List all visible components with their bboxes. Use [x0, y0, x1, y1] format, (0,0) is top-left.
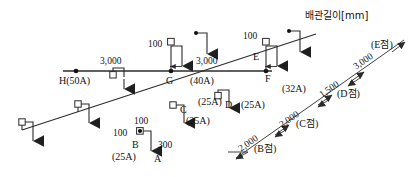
- branch-drop-upper-right: [287, 29, 300, 52]
- offset-100-b-left: 100: [113, 129, 127, 139]
- riser-dimension-300: 300: [158, 141, 172, 151]
- dimension-h-g: 3,000: [100, 57, 121, 67]
- piping-diagram-canvas: 배관길이[mm] 3,000 3,000 H(50A) G (40A) F (3…: [0, 0, 416, 177]
- diagonal-point-e: (E점): [371, 40, 393, 50]
- size-label-32a: (32A): [282, 84, 306, 94]
- node-label-e: E: [253, 52, 259, 62]
- diagonal-point-d: (D점): [337, 89, 360, 99]
- node-label-d: D: [225, 100, 232, 110]
- size-label-25a-b: (25A): [112, 152, 136, 162]
- diagonal-point-b: (B점): [254, 144, 276, 154]
- branch-drop-top-middle: [194, 31, 207, 54]
- horizontal-dimension-line: [63, 67, 277, 74]
- size-label-25a-c: (25A): [186, 116, 210, 126]
- offset-100-b-top: 100: [134, 117, 148, 127]
- branch-drop-1: [19, 119, 33, 141]
- node-label-a: A: [154, 154, 161, 164]
- diagonal-point-c: (C점): [296, 119, 318, 129]
- dimension-g-f: 3,000: [196, 57, 217, 67]
- offset-100-e: 100: [243, 32, 257, 42]
- node-label-g: G: [166, 76, 173, 86]
- node-label-h: H(50A): [59, 76, 90, 86]
- size-label-25a-d: (25A): [241, 100, 265, 110]
- node-label-f: F: [265, 74, 271, 84]
- offset-100-g: 100: [148, 40, 162, 50]
- size-label-25a-extra: (25A): [198, 97, 222, 107]
- node-label-b: B: [132, 140, 139, 150]
- size-label-40a: (40A): [190, 76, 214, 86]
- diagram-title: 배관길이[mm]: [305, 7, 368, 22]
- node-label-c: C: [180, 105, 187, 115]
